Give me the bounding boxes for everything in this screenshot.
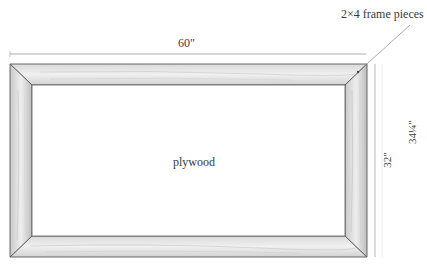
callout-label: 2×4 frame pieces bbox=[341, 7, 424, 22]
outer-height-label: 34¼" bbox=[406, 120, 418, 144]
callout-leader-line bbox=[357, 25, 410, 73]
width-dimension-line bbox=[10, 51, 366, 57]
top-frame-piece bbox=[10, 64, 367, 85]
plywood-label: plywood bbox=[173, 155, 215, 170]
left-frame-piece bbox=[10, 64, 32, 257]
frame-diagram bbox=[0, 0, 427, 268]
right-frame-piece bbox=[345, 64, 367, 257]
inner-height-label: 32" bbox=[381, 152, 393, 168]
width-label: 60" bbox=[178, 36, 195, 51]
bottom-frame-piece bbox=[10, 236, 367, 257]
